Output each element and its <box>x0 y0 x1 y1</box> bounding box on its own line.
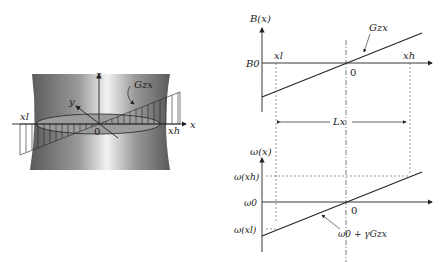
frequency-graph: ω(x) ω(xh) ω0 ω(xl) 0 ω0 + γGzx <box>234 146 432 252</box>
omega-axis-label: ω(x) <box>250 146 272 157</box>
b0-label: B0 <box>245 58 260 69</box>
x-low-label: xl <box>274 50 283 61</box>
omega-low-label: ω(xl) <box>234 225 257 235</box>
field-line <box>262 33 422 97</box>
field-graph: B(x) B0 Gzx xl xh 0 Lx <box>245 13 432 262</box>
x-axis-label: x <box>190 119 196 130</box>
omega-high-label: ω(xh) <box>234 172 260 182</box>
x-low-label: xl <box>20 111 29 122</box>
y-axis-label: y <box>68 96 75 107</box>
figure: x y z 0 Gzx xl xh B(x) B0 Gzx xl xh 0 Lx… <box>0 0 442 262</box>
x-high-label: xh <box>403 50 415 61</box>
span-label: Lx <box>332 116 346 127</box>
gradient-label: Gzx <box>134 79 153 90</box>
frequency-line <box>262 172 422 236</box>
origin-label: 0 <box>350 67 356 78</box>
field-pointer <box>364 34 370 52</box>
frequency-line-label: ω0 + γGzx <box>338 229 387 239</box>
omega0-label: ω0 <box>244 198 257 208</box>
magnet-bore-diagram: x y z 0 Gzx xl xh <box>12 69 196 170</box>
z-axis-label: z <box>95 69 102 80</box>
field-line-label: Gzx <box>369 22 388 33</box>
frequency-pointer <box>322 215 340 229</box>
origin-label: 0 <box>94 126 100 137</box>
x-high-label: xh <box>168 125 180 136</box>
b-axis-label: B(x) <box>249 13 271 24</box>
origin-label: 0 <box>351 205 357 216</box>
